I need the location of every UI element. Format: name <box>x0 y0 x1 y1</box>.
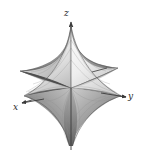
astroid-surface-plot <box>0 0 142 156</box>
y-axis-label: y <box>128 92 133 101</box>
figure-container: z y x <box>0 0 142 156</box>
lobe-lower-right <box>71 88 121 146</box>
lobe-upper-front-center <box>24 26 71 95</box>
z-axis-label: z <box>64 9 69 18</box>
lobe-upper-front-right-sheet <box>71 26 121 95</box>
x-axis-label: x <box>13 103 18 112</box>
